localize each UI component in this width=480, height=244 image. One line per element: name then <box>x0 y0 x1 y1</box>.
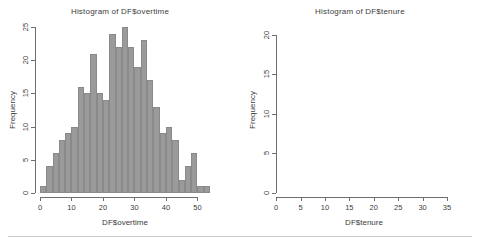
x-axis-tick <box>40 197 41 201</box>
y-axis-line <box>35 27 36 193</box>
histogram-bar <box>204 186 210 193</box>
x-axis-tick <box>374 197 375 201</box>
x-axis-tick <box>197 197 198 201</box>
x-axis-tick-label: 15 <box>345 203 353 212</box>
histogram-panel-tenure: Histogram of DF$tenure 05101520253035051… <box>240 0 480 232</box>
x-axis-title-overtime: DF$overtime <box>102 218 148 227</box>
y-axis-tick <box>31 27 35 28</box>
x-axis-tick-label: 20 <box>99 203 107 212</box>
x-axis-tick-label: 40 <box>162 203 170 212</box>
y-axis-line <box>276 35 277 193</box>
y-axis-tick <box>31 160 35 161</box>
x-axis-tick <box>71 197 72 201</box>
x-axis-tick-label: 20 <box>370 203 378 212</box>
y-axis-tick <box>31 127 35 128</box>
x-axis-tick <box>398 197 399 201</box>
y-axis-tick-label: 20 <box>262 29 271 41</box>
x-axis-tick-label: 25 <box>394 203 402 212</box>
x-axis-line <box>40 197 197 198</box>
bars-overtime <box>40 27 210 193</box>
y-axis-tick-label: 15 <box>262 68 271 80</box>
x-axis-tick <box>423 197 424 201</box>
y-axis-tick-label: 0 <box>21 187 30 199</box>
y-axis-tick <box>31 60 35 61</box>
x-axis-tick <box>325 197 326 201</box>
y-axis-title-tenure: Frequency <box>248 91 257 129</box>
x-axis-tick <box>134 197 135 201</box>
chart-title-tenure: Histogram of DF$tenure <box>240 7 480 16</box>
y-axis-tick <box>272 74 276 75</box>
plot-area-overtime <box>40 27 210 193</box>
x-axis-tick-label: 10 <box>321 203 329 212</box>
y-axis-tick-label: 15 <box>21 87 30 99</box>
y-axis-tick-label: 5 <box>21 154 30 166</box>
x-axis-tick <box>276 197 277 201</box>
x-axis-tick-label: 35 <box>443 203 451 212</box>
y-axis-tick-label: 0 <box>262 187 271 199</box>
x-axis-tick-label: 0 <box>38 203 42 212</box>
x-axis-tick-label: 30 <box>130 203 138 212</box>
x-axis-tick <box>166 197 167 201</box>
y-axis-tick <box>272 153 276 154</box>
y-axis-tick <box>31 193 35 194</box>
x-axis-tick <box>301 197 302 201</box>
y-axis-tick-label: 5 <box>262 147 271 159</box>
x-axis-tick <box>103 197 104 201</box>
y-axis-tick <box>272 35 276 36</box>
y-axis-tick-label: 20 <box>21 54 30 66</box>
x-axis-tick-label: 5 <box>298 203 302 212</box>
y-axis-tick-label: 25 <box>21 21 30 33</box>
x-axis-title-tenure: DF$tenure <box>345 218 383 227</box>
y-axis-tick-label: 10 <box>262 108 271 120</box>
y-axis-tick <box>31 93 35 94</box>
chart-title-overtime: Histogram of DF$overtime <box>0 7 240 16</box>
y-axis-tick-label: 10 <box>21 121 30 133</box>
x-axis-tick <box>349 197 350 201</box>
y-axis-tick <box>272 114 276 115</box>
footer-divider <box>8 236 472 237</box>
x-axis-tick-label: 50 <box>193 203 201 212</box>
histogram-panel-overtime: Histogram of DF$overtime 010203040500510… <box>0 0 240 232</box>
y-axis-title-overtime: Frequency <box>8 91 17 129</box>
figure-page: Histogram of DF$overtime 010203040500510… <box>0 0 480 244</box>
x-axis-tick <box>447 197 448 201</box>
x-axis-line <box>276 197 447 198</box>
x-axis-tick-label: 30 <box>418 203 426 212</box>
x-axis-tick-label: 0 <box>274 203 278 212</box>
x-axis-tick-label: 10 <box>67 203 75 212</box>
y-axis-tick <box>272 193 276 194</box>
